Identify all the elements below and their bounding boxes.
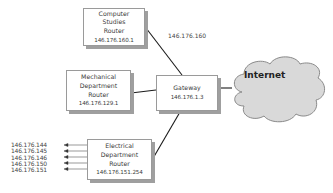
node-label: Router bbox=[88, 91, 109, 100]
host-ip: 146.176.151 bbox=[11, 167, 47, 173]
electrical-department-router: Electrical Department Router 146.176.151… bbox=[87, 139, 152, 180]
internet-label: Internet bbox=[244, 70, 285, 80]
node-label: Mechanical bbox=[81, 73, 116, 82]
node-label: Department bbox=[101, 151, 138, 160]
node-label: Department bbox=[80, 82, 117, 91]
node-label: Computer bbox=[99, 10, 130, 19]
electrical-host-list: 146.176.144 146.176.145 146.176.146 146.… bbox=[11, 142, 47, 173]
node-ip: 146.176.151.254 bbox=[96, 168, 143, 177]
node-label: Gateway bbox=[173, 84, 200, 93]
node-label: Studies bbox=[103, 18, 126, 27]
node-ip: 146.176.1.3 bbox=[171, 93, 204, 102]
internet-cloud-icon bbox=[234, 57, 324, 122]
link-gateway-electrical bbox=[152, 112, 180, 160]
node-label: Electrical bbox=[105, 142, 133, 151]
link-mechanical-gateway bbox=[131, 90, 156, 93]
mechanical-department-router: Mechanical Department Router 146.176.129… bbox=[66, 70, 131, 111]
node-ip: 146.176.129.1 bbox=[79, 99, 119, 108]
gateway: Gateway 146.176.1.3 bbox=[156, 75, 218, 111]
subnet-label: 146.176.160 bbox=[168, 32, 206, 39]
node-ip: 146.176.160.1 bbox=[94, 36, 134, 45]
host-arrows bbox=[64, 144, 87, 171]
node-label: Router bbox=[109, 160, 130, 169]
computer-studies-router: Computer Studies Router 146.176.160.1 bbox=[83, 8, 145, 46]
node-label: Router bbox=[104, 27, 125, 36]
